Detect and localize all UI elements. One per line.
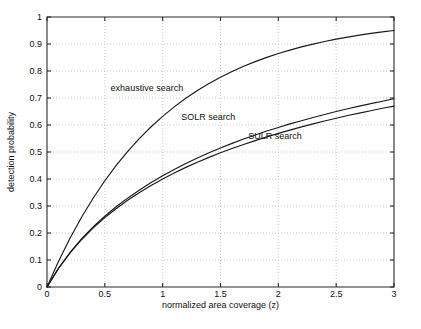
y-tick-label: 0.5	[29, 147, 42, 157]
x-axis-title: normalized area coverage (z)	[162, 300, 279, 310]
y-tick-label: 0.1	[29, 255, 42, 265]
y-tick-label: 1	[37, 12, 42, 22]
series-line-solr-search	[47, 99, 394, 287]
x-tick-label: 3	[391, 289, 396, 299]
x-tick-label: 0	[44, 289, 49, 299]
annotation-sulr-search: SULR search	[248, 131, 302, 141]
y-tick-label: 0.8	[29, 66, 42, 76]
y-tick-label: 0.7	[29, 93, 42, 103]
x-tick-label: 1	[160, 289, 165, 299]
x-tick-label: 2.5	[330, 289, 343, 299]
y-tick-label: 0.9	[29, 39, 42, 49]
series-annotations: exhaustive searchSOLR searchSULR search	[111, 83, 302, 141]
y-axis-title: detection probability	[6, 111, 16, 192]
y-tick-label: 0	[37, 282, 42, 292]
detection-probability-chart: 00.10.20.30.40.50.60.70.80.9100.511.522.…	[0, 0, 421, 329]
y-tick-label: 0.4	[29, 174, 42, 184]
y-tick-label: 0.2	[29, 228, 42, 238]
annotation-solr-search: SOLR search	[181, 112, 235, 122]
y-tick-label: 0.3	[29, 201, 42, 211]
y-tick-label: 0.6	[29, 120, 42, 130]
x-tick-label: 1.5	[214, 289, 227, 299]
x-tick-label: 2	[276, 289, 281, 299]
figure-canvas: 00.10.20.30.40.50.60.70.80.9100.511.522.…	[0, 0, 421, 329]
annotation-exhaustive-search: exhaustive search	[111, 83, 184, 93]
gridlines	[47, 17, 394, 287]
x-tick-label: 0.5	[99, 289, 112, 299]
